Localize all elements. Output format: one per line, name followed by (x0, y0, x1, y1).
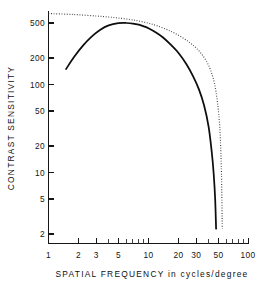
x-minor-tick-marks (108, 239, 243, 244)
y-axis-title: CONTRAST SENSITIVITY (6, 66, 16, 190)
contrast-sensitivity-figure: 500 200 100 50 20 10 5 2 (0, 0, 261, 285)
dotted-curve-path (49, 14, 223, 229)
x-ticklabel-3: 3 (94, 250, 99, 260)
y-tick-marks (49, 23, 55, 234)
y-tick-labels: 500 200 100 50 20 10 5 2 (30, 18, 45, 239)
data-curves (49, 14, 223, 229)
x-ticklabel-5: 5 (116, 250, 121, 260)
x-ticklabel-2: 2 (76, 250, 81, 260)
y-ticklabel-200: 200 (30, 53, 45, 63)
y-ticklabel-500: 500 (30, 18, 45, 28)
axes-group (48, 11, 248, 244)
chart-canvas: 500 200 100 50 20 10 5 2 (0, 0, 261, 285)
x-ticklabel-20: 20 (173, 250, 183, 260)
x-ticklabel-50: 50 (213, 250, 223, 260)
x-tick-marks (49, 238, 249, 244)
x-ticklabel-30: 30 (191, 250, 201, 260)
solid-curve-path (66, 23, 216, 229)
y-ticklabel-20: 20 (35, 141, 45, 151)
y-ticklabel-10: 10 (35, 168, 45, 178)
x-axis-title: SPATIAL FREQUENCY in cycles/degree (56, 269, 249, 279)
x-tick-labels: 1 2 3 5 10 20 30 50 100 (46, 250, 256, 260)
x-ticklabel-1: 1 (46, 250, 51, 260)
y-ticklabel-5: 5 (40, 194, 45, 204)
y-ticklabel-2: 2 (40, 229, 45, 239)
x-ticklabel-100: 100 (240, 250, 255, 260)
y-ticklabel-50: 50 (35, 106, 45, 116)
x-ticklabel-10: 10 (143, 250, 153, 260)
y-ticklabel-100: 100 (30, 80, 45, 90)
